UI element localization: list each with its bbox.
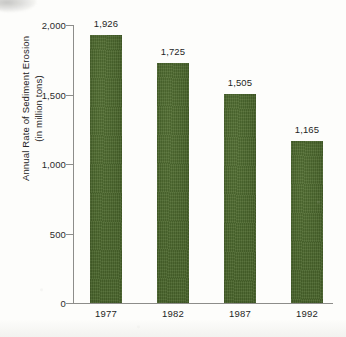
- x-axis-category-label-1987: 1987: [229, 308, 251, 319]
- y-axis-title: Annual Rate of Sediment Erosion (in mill…: [20, 0, 45, 224]
- bar-1992[interactable]: [291, 141, 323, 303]
- bar-chart: Annual Rate of Sediment Erosion (in mill…: [0, 0, 346, 337]
- y-tick-mark-0: [66, 303, 74, 304]
- y-tick-label-0: 0: [6, 298, 66, 309]
- chart-screenshot: Annual Rate of Sediment Erosion (in mill…: [0, 0, 346, 337]
- x-axis-line: [73, 303, 333, 304]
- x-axis-category-label-1977: 1977: [95, 308, 117, 319]
- x-axis-category-label-1982: 1982: [162, 308, 184, 319]
- bar-value-label-1987: 1,505: [228, 77, 252, 88]
- bar-1977[interactable]: [90, 35, 122, 303]
- bar-value-label-1977: 1,926: [94, 18, 118, 29]
- bar-value-label-1982: 1,725: [161, 46, 185, 57]
- bar-1987[interactable]: [224, 94, 256, 303]
- bar-1982[interactable]: [157, 63, 189, 303]
- y-axis-title-line2: (in million tons): [32, 0, 45, 224]
- y-axis-title-line1: Annual Rate of Sediment Erosion: [20, 0, 33, 224]
- x-axis-category-label-1992: 1992: [296, 308, 318, 319]
- bar-value-label-1992: 1,165: [295, 124, 319, 135]
- y-tick-label-1500: 1,500: [6, 89, 66, 100]
- y-tick-mark-500: [66, 234, 74, 235]
- y-tick-mark-2000: [66, 25, 74, 26]
- y-tick-mark-1500: [66, 95, 74, 96]
- y-tick-label-2000: 2,000: [6, 20, 66, 31]
- y-tick-mark-1000: [66, 164, 74, 165]
- y-tick-label-500: 500: [6, 228, 66, 239]
- y-tick-label-1000: 1,000: [6, 159, 66, 170]
